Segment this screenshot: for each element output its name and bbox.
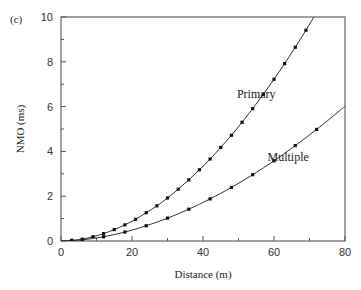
panel-label: (c) (10, 13, 23, 26)
data-point-marker (209, 157, 212, 160)
data-point-marker (166, 196, 169, 199)
plot-frame (61, 17, 345, 241)
x-tick-label: 20 (126, 246, 138, 258)
data-point-marker (102, 232, 105, 235)
data-point-marker (177, 188, 180, 191)
data-point-marker (230, 134, 233, 137)
data-point-marker (187, 178, 190, 181)
data-point-marker (315, 128, 318, 131)
data-point-marker (123, 223, 126, 226)
x-tick-label: 80 (339, 246, 351, 258)
data-point-marker (155, 204, 158, 207)
data-point-marker (209, 197, 212, 200)
x-axis: 020406080 (58, 236, 351, 258)
data-point-marker (251, 173, 254, 176)
data-point-marker (272, 78, 275, 81)
nmo-chart: (c) 020406080 0246810 PrimaryMultiple Di… (0, 0, 361, 290)
data-point-marker (219, 146, 222, 149)
data-point-marker (315, 11, 318, 14)
x-tick-label: 40 (197, 246, 209, 258)
series-layer (61, 0, 345, 242)
data-point-marker (240, 121, 243, 124)
data-point-marker (304, 29, 307, 32)
x-tick-label: 0 (58, 246, 64, 258)
data-point-marker (145, 224, 148, 227)
data-point-marker (283, 62, 286, 65)
data-point-marker (166, 217, 169, 220)
x-axis-title: Distance (m) (174, 268, 231, 281)
data-point-marker (134, 218, 137, 221)
y-axis: 0246810 (41, 11, 66, 247)
y-tick-label: 6 (47, 101, 53, 113)
data-point-marker (187, 208, 190, 211)
series-primary (61, 0, 327, 242)
data-point-marker (251, 107, 254, 110)
data-point-marker (81, 238, 84, 241)
data-point-marker (102, 235, 105, 238)
data-point-marker (230, 186, 233, 189)
y-axis-title: NMO (ms) (14, 104, 27, 153)
x-tick-label: 60 (268, 246, 280, 258)
series-line (61, 0, 327, 241)
series-labels: PrimaryMultiple (237, 87, 309, 165)
y-tick-label: 2 (47, 190, 53, 202)
y-tick-label: 4 (47, 145, 53, 157)
y-tick-label: 8 (47, 56, 53, 68)
series-line (61, 106, 345, 241)
y-tick-label: 10 (41, 11, 53, 23)
data-point-marker (294, 144, 297, 147)
data-point-marker (145, 211, 148, 214)
data-point-marker (70, 239, 73, 242)
y-tick-label: 0 (47, 235, 53, 247)
series-multiple (61, 106, 345, 242)
series-label-multiple: Multiple (268, 150, 309, 164)
data-point-marker (113, 228, 116, 231)
data-point-marker (198, 168, 201, 171)
data-point-marker (123, 230, 126, 233)
series-label-primary: Primary (237, 87, 276, 101)
data-point-marker (294, 46, 297, 49)
